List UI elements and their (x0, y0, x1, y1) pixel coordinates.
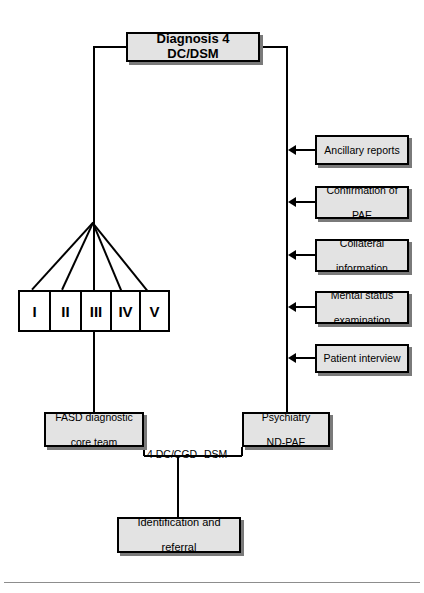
path-label-dsm: DSM (204, 448, 227, 460)
node-diagnosis-label: Diagnosis 4 DC/DSM (128, 32, 258, 62)
node-diagnosis-4dc-dsm[interactable]: Diagnosis 4 DC/DSM (126, 32, 260, 62)
connector-core-team-down-stub (143, 447, 145, 456)
connector-top-right-stub (260, 46, 288, 48)
connector-strip-to-core-team (93, 332, 95, 412)
arrow-head-patient-interview (288, 353, 296, 363)
arrow-line-ancillary-reports (294, 149, 315, 151)
connector-top-left-stub (93, 46, 126, 48)
arrow-head-mental-status-examination (288, 302, 296, 312)
node-mental-status-examination-line2: examination (328, 314, 396, 326)
path-label-4dc-cgd: 4 DC/CGD (147, 448, 197, 460)
node-psychiatry-label: PsychiatryND-PAE (256, 411, 316, 447)
severity-cell-3-label: III (90, 303, 103, 320)
node-collateral-information-line1: Collateral (333, 237, 391, 249)
arrow-line-confirmation-of-pae (294, 201, 315, 203)
severity-cell-1-label: I (32, 303, 36, 320)
node-identification-and-referral[interactable]: Identification andreferral (117, 517, 241, 553)
node-confirmation-of-pae-line1: Confirmation of (323, 184, 400, 196)
node-psychiatry-nd-pae[interactable]: PsychiatryND-PAE (242, 412, 330, 447)
arrow-head-confirmation-of-pae (288, 197, 296, 207)
arrow-line-patient-interview (294, 357, 315, 359)
severity-categories-strip: I II III IV V (18, 290, 170, 332)
connector-fan-branch-5 (92, 223, 148, 291)
arrow-line-mental-status-examination (294, 306, 315, 308)
node-outcome-line1: Identification and (134, 516, 223, 529)
arrow-head-collateral-information (288, 250, 296, 260)
flowchart-canvas: Diagnosis 4 DC/DSM I II III IV V (0, 0, 424, 593)
arrow-head-ancillary-reports (288, 145, 296, 155)
node-collateral-information[interactable]: Collateralinformation (315, 239, 409, 272)
severity-cell-2-label: II (61, 303, 69, 320)
node-outcome-label: Identification andreferral (131, 516, 226, 554)
bottom-divider-rule (4, 582, 420, 583)
node-mental-status-examination-label: Mental statusexamination (325, 289, 399, 325)
node-confirmation-of-pae[interactable]: Confirmation ofPAE (315, 186, 409, 219)
node-patient-interview-label: Patient interview (320, 352, 403, 364)
node-psychiatry-line2: ND-PAE (259, 436, 313, 448)
arrow-line-collateral-information (294, 254, 315, 256)
node-fasd-core-team-line1: FASD diagnostic (52, 411, 136, 423)
connector-psychiatry-down-stub (241, 447, 243, 456)
node-fasd-core-team-line2: core team (52, 436, 136, 448)
connector-junction-to-outcome (177, 455, 179, 517)
severity-cell-4[interactable]: IV (112, 292, 141, 330)
node-psychiatry-line1: Psychiatry (259, 411, 313, 423)
node-fasd-core-team-label: FASD diagnosticcore team (49, 411, 139, 447)
connector-fan-branch-3 (93, 223, 95, 290)
node-mental-status-examination[interactable]: Mental statusexamination (315, 291, 409, 324)
node-collateral-information-line2: information (333, 262, 391, 274)
severity-cell-5[interactable]: V (141, 292, 168, 330)
node-patient-interview[interactable]: Patient interview (315, 344, 409, 373)
connector-fan-branch-1 (31, 222, 94, 291)
connector-left-spine (93, 46, 95, 223)
severity-cell-3[interactable]: III (82, 292, 112, 330)
connector-fan-branch-4 (92, 223, 122, 291)
node-ancillary-reports[interactable]: Ancillary reports (315, 135, 409, 165)
severity-cell-1[interactable]: I (20, 292, 51, 330)
node-mental-status-examination-line1: Mental status (328, 289, 396, 301)
severity-cell-5-label: V (149, 303, 159, 320)
node-fasd-diagnostic-core-team[interactable]: FASD diagnosticcore team (44, 412, 144, 447)
node-confirmation-of-pae-line2: PAE (323, 209, 400, 221)
severity-cell-4-label: IV (118, 303, 132, 320)
connector-fan-branch-2 (61, 222, 94, 290)
node-outcome-line2: referral (134, 541, 223, 554)
node-ancillary-reports-label: Ancillary reports (321, 144, 402, 156)
node-collateral-information-label: Collateralinformation (330, 237, 394, 273)
severity-cell-2[interactable]: II (51, 292, 82, 330)
node-confirmation-of-pae-label: Confirmation ofPAE (320, 184, 403, 220)
